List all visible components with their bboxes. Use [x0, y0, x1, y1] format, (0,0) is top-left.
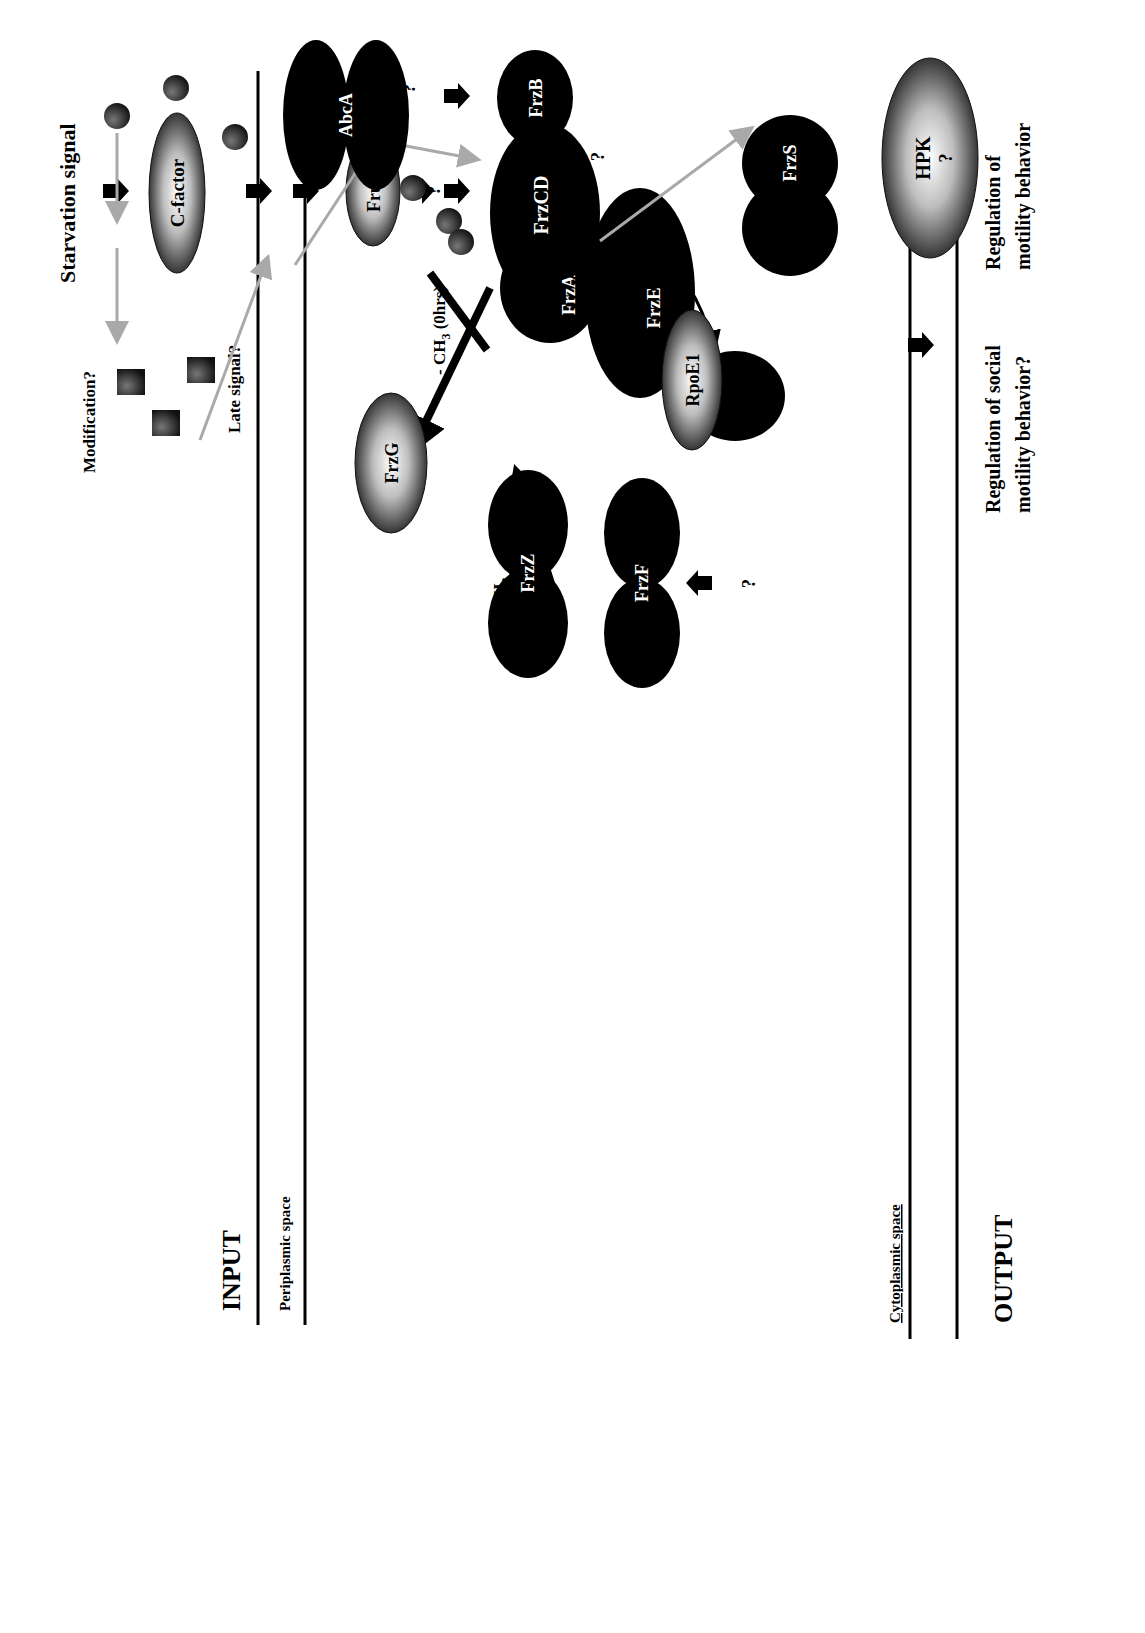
social-output-line1: Regulation of social [982, 345, 1005, 513]
abca-protein: AbcA [283, 40, 409, 190]
block-arrow-social-output [908, 332, 934, 358]
frz-signaling-diagram: INPUT Periplasmic space Cytoplasmic spac… [0, 0, 1145, 1633]
phospho-label-frze: P [551, 252, 571, 263]
frzg-label: FrzG [382, 443, 402, 484]
motility-output-line1: Regulation of [982, 155, 1005, 270]
abca-label: AbcA [336, 93, 356, 137]
modification-label: Modification? [80, 371, 99, 473]
late-signal-square-3 [152, 410, 180, 436]
rpoe1-label: RpoE1 [683, 353, 703, 406]
signal-ball-1 [104, 103, 130, 129]
hpk-protein: HPK ? [882, 58, 978, 258]
motility-output-line2: motility behavior [1012, 123, 1035, 270]
signal-ball-3 [222, 124, 248, 150]
frzs-protein: FrzS [742, 115, 838, 276]
late-signal-square-2 [187, 357, 215, 383]
frze-label: FrzE [643, 287, 664, 328]
frzf-protein: FrzF [604, 478, 680, 688]
c-factor-label: C-factor [167, 158, 188, 227]
abca-question-mark: ? [424, 186, 444, 195]
signal-ball-6 [448, 229, 474, 255]
late-signal-label: Late signal? [225, 345, 244, 433]
diagram-stage: INPUT Periplasmic space Cytoplasmic spac… [0, 0, 1145, 1633]
frza-protein [500, 233, 600, 343]
c-factor-protein: C-factor [149, 113, 205, 273]
frzz-protein: FrzZ [488, 470, 568, 678]
rpoe1-protein: RpoE1 [662, 310, 722, 450]
signal-ball-4 [400, 175, 426, 201]
frza-label: FrzA [559, 275, 579, 315]
cytoplasmic-label: Cytoplasmic space [887, 1204, 903, 1323]
frz-complex: FrzB FrzCD FrzA FrzE [490, 50, 785, 441]
periplasmic-label: Periplasmic space [277, 1196, 293, 1311]
frzcd-label: FrzCD [530, 176, 552, 235]
block-arrow-frua-2 [444, 178, 470, 204]
frzb-label: FrzB [526, 79, 546, 118]
block-arrow-frzf [686, 570, 712, 596]
starvation-signal-label: Starvation signal [55, 123, 80, 283]
frzf-question-mark: ? [739, 579, 759, 588]
frzs-label: FrzS [780, 145, 800, 182]
input-label: INPUT [217, 1230, 246, 1311]
frzs-question-mark: ? [588, 152, 608, 161]
block-arrow-frzb [444, 83, 470, 109]
hpk-question-mark: ? [936, 154, 956, 163]
hpk-label: HPK [912, 136, 934, 180]
social-output-line2: motility behavior? [1012, 356, 1035, 513]
frzf-label: FrzF [632, 564, 652, 602]
frzz-label: FrzZ [518, 554, 538, 593]
frzg-protein: FrzG [355, 393, 427, 533]
output-label: OUTPUT [989, 1215, 1018, 1323]
late-signal-square-1 [117, 369, 145, 395]
signal-ball-2 [163, 75, 189, 101]
